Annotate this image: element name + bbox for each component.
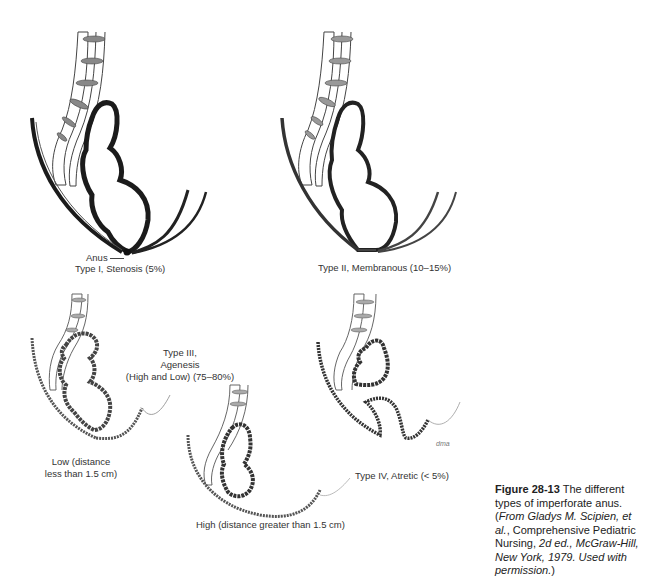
type-3-low-label-line1: Low (distance (36, 456, 126, 468)
diagram-type-4-atretic: dma (310, 290, 480, 460)
figure-number: Figure 28-13 (495, 483, 560, 495)
type-4-title: Type IV, Atretic (< 5%) (355, 470, 449, 482)
anus-pointer-line (110, 258, 124, 259)
type-3-high-label: High (distance greater than 1.5 cm) (196, 519, 345, 531)
type-1-title: Type I, Stenosis (5%) (75, 263, 165, 275)
figure-caption: Figure 28-13 The different types of impe… (495, 483, 645, 578)
diagram-type-1-stenosis: Anus Type I, Stenosis (5%) (0, 0, 240, 260)
type-3-low-label-line2: less than 1.5 cm) (36, 468, 126, 480)
type-3-title-line1: Type III, (120, 347, 240, 359)
type-2-title: Type II, Membranous (10–15%) (318, 262, 451, 274)
type-3-low-label: Low (distance less than 1.5 cm) (36, 456, 126, 480)
illustrator-signature: dma (436, 438, 450, 450)
illustration-type-4 (310, 290, 480, 460)
caption-text-3: ) (551, 564, 555, 576)
illustration-type-1 (0, 0, 240, 260)
diagram-type-2-membranous: Type II, Membranous (10–15%) (280, 0, 520, 290)
illustration-type-2 (280, 0, 520, 290)
